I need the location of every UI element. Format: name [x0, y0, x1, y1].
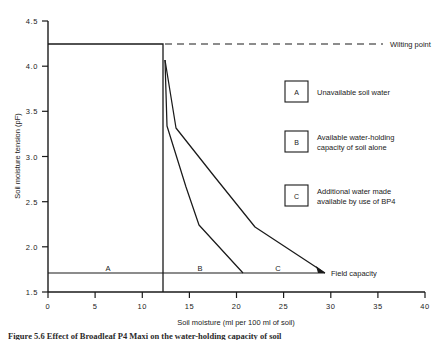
x-axis-title: Soil moisture (ml per 100 ml of soil) [177, 318, 295, 327]
y-axis-ticks [42, 21, 48, 292]
zone-label-c: C [275, 264, 281, 273]
series-wilting-point-plateau [48, 44, 163, 292]
legend-entry-a: A Unavailable soil water [285, 81, 390, 102]
legend-label-a-line1: Unavailable soil water [317, 88, 390, 97]
legend-label-c-line2: available by use of BP4 [317, 197, 395, 206]
figure-caption: Figure 5.6 Effect of Broadleaf P4 Maxi o… [8, 331, 438, 340]
y-tick-label-3.0: 3.0 [26, 153, 38, 162]
legend-label-b-line2: capacity of soil alone [317, 143, 387, 152]
x-tick-label-10: 10 [138, 302, 148, 311]
legend-key-letter-a: A [294, 89, 299, 96]
legend-entry-b: B Available water-holding capacity of so… [285, 131, 394, 152]
y-tick-label-4.0: 4.0 [26, 62, 38, 71]
soil-moisture-chart: 4.5 4.0 3.5 3.0 2.5 2.0 1.5 0 5 10 15 20… [0, 0, 444, 340]
y-tick-label-2.0: 2.0 [26, 243, 38, 252]
figure-container: 4.5 4.0 3.5 3.0 2.5 2.0 1.5 0 5 10 15 20… [0, 0, 444, 340]
zone-label-b: B [197, 264, 202, 273]
x-tick-label-40: 40 [420, 302, 430, 311]
x-tick-label-5: 5 [93, 302, 98, 311]
field-capacity-arrow-icon [316, 266, 325, 273]
legend-label-c-line1: Additional water made [317, 187, 391, 196]
x-tick-label-30: 30 [326, 302, 336, 311]
series-soil-alone-curve [165, 60, 243, 273]
y-tick-label-3.5: 3.5 [26, 107, 38, 116]
x-tick-label-20: 20 [232, 302, 242, 311]
legend-entry-c: C Additional water made available by use… [285, 185, 395, 206]
x-tick-label-15: 15 [185, 302, 195, 311]
x-tick-label-25: 25 [279, 302, 289, 311]
x-tick-label-0: 0 [46, 302, 51, 311]
y-tick-label-4.5: 4.5 [26, 17, 38, 26]
x-tick-label-35: 35 [373, 302, 383, 311]
y-tick-label-2.5: 2.5 [26, 198, 38, 207]
legend-key-letter-b: B [294, 139, 299, 146]
legend-label-b-line1: Available water-holding [317, 133, 394, 142]
wilting-point-annotation: Wilting point [390, 40, 432, 49]
x-axis-ticks [48, 292, 425, 298]
legend-key-letter-c: C [294, 193, 299, 200]
field-capacity-annotation: Field capacity [331, 269, 377, 278]
y-axis-title: Soil moisture tension (pF) [13, 113, 22, 199]
y-tick-label-1.5: 1.5 [26, 288, 38, 297]
zone-label-a: A [105, 264, 110, 273]
